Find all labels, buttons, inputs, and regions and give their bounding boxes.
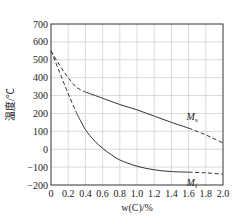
x-axis-ticks: 00.20.40.60.81.01.21.41.61.82.0 [49, 188, 230, 199]
x-tick-label: 1.6 [182, 188, 195, 199]
y-tick-label: −100 [27, 162, 48, 173]
x-tick-label: 0.6 [96, 188, 109, 199]
y-tick-label: 500 [33, 54, 48, 65]
y-axis-ticks: 7006005004003002001000−100−200 [27, 19, 48, 191]
x-tick-label: 2.0 [217, 188, 230, 199]
x-axis-label: w(C)/% [121, 202, 153, 214]
curve-labels: MsMf [186, 111, 198, 190]
y-tick-label: 600 [33, 36, 48, 47]
y-tick-label: 200 [33, 108, 48, 119]
y-tick-label: 700 [33, 19, 48, 30]
series-mf-dashed-segment [51, 51, 77, 114]
x-tick-label: 1.2 [148, 188, 161, 199]
y-tick-label: 100 [33, 126, 48, 137]
x-tick-label: 0.2 [62, 188, 75, 199]
x-tick-label: 0.4 [79, 188, 92, 199]
y-tick-label: 0 [43, 144, 48, 155]
x-tick-label: 1.0 [131, 188, 144, 199]
grid [51, 24, 223, 185]
x-tick-label: 1.8 [200, 188, 213, 199]
x-tick-label: 0.8 [114, 188, 127, 199]
y-axis-label: 温度/℃ [4, 88, 16, 121]
y-tick-label: −200 [27, 180, 48, 191]
x-tick-label: 0 [49, 188, 54, 199]
y-tick-label: 300 [33, 90, 48, 101]
y-tick-label: 400 [33, 72, 48, 83]
chart: 00.20.40.60.81.01.21.41.61.82.0 70060050… [0, 0, 242, 224]
x-tick-label: 1.4 [165, 188, 178, 199]
